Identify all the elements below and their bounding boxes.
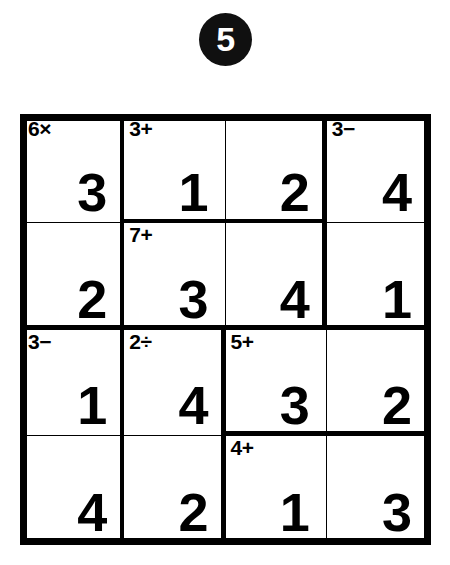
- cell-value: 4: [178, 378, 207, 432]
- cell-value: 3: [280, 378, 309, 432]
- grid-cell[interactable]: 2: [327, 330, 428, 436]
- cell-value: 1: [77, 378, 106, 432]
- cage-label: 5+: [231, 331, 254, 353]
- grid-cell[interactable]: 4: [226, 223, 327, 329]
- cage-label: 3−: [332, 118, 355, 140]
- puzzle-number: 5: [216, 22, 234, 56]
- cage-label: 3−: [28, 331, 51, 353]
- cell-value: 3: [77, 165, 106, 219]
- grid-cell[interactable]: 3: [327, 436, 428, 542]
- cell-value: 2: [77, 272, 106, 326]
- kenken-grid: 6×33+123−427+3413−12÷45+32424+13: [23, 117, 428, 542]
- grid-cell[interactable]: 2: [23, 223, 124, 329]
- cell-value: 3: [178, 272, 207, 326]
- puzzle-number-badge: 5: [199, 13, 252, 66]
- kenken-grid-container: 6×33+123−427+3413−12÷45+32424+13: [23, 117, 428, 542]
- cell-value: 3: [382, 485, 411, 539]
- cell-value: 2: [280, 165, 309, 219]
- grid-cell[interactable]: 4: [23, 436, 124, 542]
- cage-label: 3+: [129, 118, 152, 140]
- grid-cell[interactable]: 5+3: [226, 330, 327, 436]
- cage-label: 2÷: [129, 331, 151, 353]
- cage-label: 7+: [129, 224, 152, 246]
- cage-label: 6×: [28, 118, 51, 140]
- cage-label: 4+: [231, 437, 254, 459]
- cell-value: 1: [280, 485, 309, 539]
- grid-cell[interactable]: 2÷4: [124, 330, 225, 436]
- grid-cell[interactable]: 2: [124, 436, 225, 542]
- cell-value: 4: [382, 165, 411, 219]
- grid-cell[interactable]: 3+1: [124, 117, 225, 223]
- grid-cell[interactable]: 7+3: [124, 223, 225, 329]
- cell-value: 2: [382, 378, 411, 432]
- cell-value: 4: [280, 272, 309, 326]
- grid-cell[interactable]: 6×3: [23, 117, 124, 223]
- cell-value: 1: [178, 165, 207, 219]
- cell-value: 2: [178, 485, 207, 539]
- grid-cell[interactable]: 3−1: [23, 330, 124, 436]
- grid-cell[interactable]: 2: [226, 117, 327, 223]
- grid-cell[interactable]: 1: [327, 223, 428, 329]
- cell-value: 1: [382, 272, 411, 326]
- grid-cell[interactable]: 3−4: [327, 117, 428, 223]
- grid-cell[interactable]: 4+1: [226, 436, 327, 542]
- cell-value: 4: [77, 485, 106, 539]
